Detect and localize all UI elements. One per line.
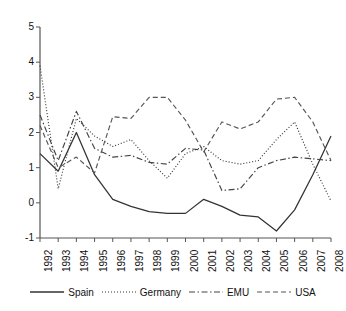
x-axis-tick-label: 1996 [117, 250, 127, 272]
x-axis-tick-label: 2001 [208, 250, 218, 272]
line-chart: 543210-1 1992199319941995199619971998199… [0, 0, 346, 311]
legend-item-emu[interactable]: EMU [189, 287, 249, 298]
x-axis-tick-label: 1994 [80, 250, 90, 272]
legend-swatch-dashed-icon [257, 288, 291, 296]
x-axis-tick-label: 1993 [62, 250, 72, 272]
x-axis-tick-label: 2000 [190, 250, 200, 272]
legend-item-usa[interactable]: USA [257, 287, 316, 298]
legend-swatch-dotted-icon [102, 288, 136, 296]
x-axis-tick-label: 2002 [226, 250, 236, 272]
legend-swatch-dashdot-icon [189, 288, 223, 296]
chart-legend: SpainGermanyEMUUSA [0, 281, 346, 303]
x-axis-tick-label: 1999 [171, 250, 181, 272]
y-axis-tick-label: 3 [8, 92, 34, 102]
series-line-germany [40, 66, 331, 201]
y-axis-tick-label: 0 [8, 198, 34, 208]
legend-item-spain[interactable]: Spain [30, 287, 94, 298]
series-line-spain [40, 133, 331, 231]
series-line-usa [40, 97, 331, 173]
x-axis-tick-label: 2008 [335, 250, 345, 272]
y-axis-tick-label: -1 [8, 233, 34, 243]
x-axis-tick-label: 1997 [135, 250, 145, 272]
legend-swatch-solid-icon [30, 288, 64, 296]
x-axis-tick-label: 1995 [99, 250, 109, 272]
legend-label: EMU [227, 287, 249, 298]
x-axis-tick-label: 2006 [299, 250, 309, 272]
y-axis-tick-label: 5 [8, 22, 34, 32]
x-axis-tick-label: 1998 [153, 250, 163, 272]
legend-label: Spain [68, 287, 94, 298]
series-line-emu [40, 111, 331, 190]
y-axis-tick-label: 4 [8, 57, 34, 67]
x-axis-tick-label: 2003 [244, 250, 254, 272]
x-axis-tick-label: 2004 [262, 250, 272, 272]
x-axis-tick-label: 1992 [44, 250, 54, 272]
y-axis-tick-label: 2 [8, 128, 34, 138]
axis-layer [36, 27, 331, 242]
x-axis-tick-label: 2005 [280, 250, 290, 272]
legend-label: Germany [140, 287, 181, 298]
x-axis-tick-label: 2007 [317, 250, 327, 272]
legend-item-germany[interactable]: Germany [102, 287, 181, 298]
y-axis-tick-label: 1 [8, 163, 34, 173]
legend-label: USA [295, 287, 316, 298]
series-layer [40, 66, 331, 231]
